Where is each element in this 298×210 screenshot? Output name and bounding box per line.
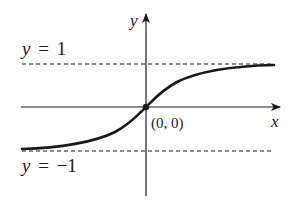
upper-asymptote-eq: = bbox=[38, 38, 49, 59]
upper-asymptote-var: y bbox=[20, 38, 31, 59]
upper-asymptote-label: y = 1 bbox=[20, 38, 66, 59]
y-axis-label: y bbox=[128, 11, 138, 30]
function-graph: y x (0, 0) y = 1 y = −1 bbox=[0, 0, 298, 210]
origin-point bbox=[143, 104, 149, 110]
x-axis-label: x bbox=[270, 112, 279, 131]
lower-asymptote-var: y bbox=[20, 155, 31, 176]
lower-asymptote-eq: = bbox=[38, 155, 49, 176]
upper-asymptote-value: 1 bbox=[57, 38, 67, 59]
lower-asymptote-label: y = −1 bbox=[20, 155, 77, 176]
lower-asymptote-value: −1 bbox=[57, 155, 77, 176]
origin-label: (0, 0) bbox=[151, 115, 184, 132]
